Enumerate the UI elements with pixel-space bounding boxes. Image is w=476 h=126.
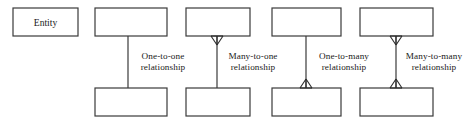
- one-to-one-bottom-entity-box: [95, 88, 167, 116]
- one-to-many-label-line1: One-to-many: [319, 51, 369, 61]
- relationship-many-to-many: Many-to-many relationship: [360, 8, 462, 116]
- one-to-many-label-line2: relationship: [322, 62, 367, 72]
- er-cardinality-diagram: Entity One-to-one relationship Many-to-o…: [0, 0, 476, 126]
- one-to-many-bottom-entity-box: [272, 88, 341, 116]
- many-to-many-crowfoot-bottom-icon: [390, 79, 402, 88]
- many-to-one-label-line2: relationship: [231, 62, 276, 72]
- relationship-many-to-one: Many-to-one relationship: [186, 8, 278, 116]
- relationship-one-to-one: One-to-one relationship: [95, 8, 186, 116]
- entity-legend-label: Entity: [34, 17, 58, 28]
- many-to-one-top-entity-box: [186, 8, 250, 36]
- one-to-many-crowfoot-bottom-icon: [300, 79, 312, 88]
- relationship-one-to-many: One-to-many relationship: [272, 8, 369, 116]
- many-to-many-bottom-entity-box: [360, 88, 433, 116]
- one-to-one-label-line2: relationship: [141, 62, 186, 72]
- many-to-many-label-line2: relationship: [412, 62, 457, 72]
- many-to-one-label-line1: Many-to-one: [228, 51, 277, 61]
- diagram-canvas: Entity One-to-one relationship Many-to-o…: [0, 0, 476, 126]
- many-to-many-top-entity-box: [360, 8, 433, 36]
- one-to-one-top-entity-box: [95, 8, 167, 36]
- many-to-one-crowfoot-top-icon: [211, 36, 223, 45]
- many-to-one-bottom-entity-box: [186, 88, 250, 116]
- one-to-many-top-entity-box: [272, 8, 341, 36]
- many-to-many-crowfoot-top-icon: [390, 36, 402, 45]
- many-to-many-label-line1: Many-to-many: [406, 51, 463, 61]
- entity-legend: Entity: [13, 8, 78, 36]
- one-to-one-label-line1: One-to-one: [142, 51, 185, 61]
